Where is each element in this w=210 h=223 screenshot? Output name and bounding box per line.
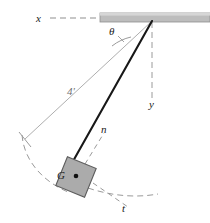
guide-end-tick	[19, 132, 31, 147]
center-of-gravity-label: G	[57, 170, 65, 181]
y-axis-label: y	[149, 99, 154, 110]
center-of-gravity-dot	[74, 174, 79, 179]
x-axis-label: x	[36, 13, 41, 24]
ceiling-support	[100, 13, 210, 22]
rod-length-label: 4'	[67, 86, 75, 97]
n-axis-dashed-line	[85, 133, 104, 164]
diagram-canvas	[0, 0, 210, 223]
t-axis-label: t	[122, 203, 125, 214]
theta-angle-label: θ	[109, 26, 114, 37]
theta-angle-arc	[112, 37, 131, 46]
ceiling-highlight	[100, 13, 210, 16]
n-axis-label: n	[101, 124, 107, 135]
swing-path-arc-right	[88, 188, 158, 196]
rod-length-guide-line	[25, 21, 152, 139]
pendulum-rod	[72, 21, 152, 163]
pendulum-diagram: x θ y 4' n t G	[0, 0, 210, 223]
